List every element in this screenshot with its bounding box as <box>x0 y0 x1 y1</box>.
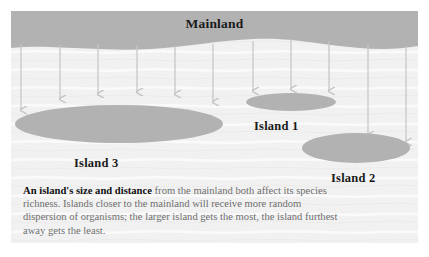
island-3-label: Island 3 <box>74 156 118 171</box>
caption-lead: An island's size and distance <box>23 185 152 196</box>
island-1-shape <box>246 93 336 111</box>
figure-caption: An island's size and distance from the m… <box>23 184 343 237</box>
mainland-label: Mainland <box>11 16 418 32</box>
diagram-scene: Mainland Island 1 Island 2 Island 3 An i… <box>11 11 418 243</box>
island-biogeography-figure: Mainland Island 1 Island 2 Island 3 An i… <box>0 0 429 257</box>
island-2-shape <box>302 133 410 163</box>
island-1-label: Island 1 <box>254 119 298 134</box>
island-3-shape <box>15 105 223 143</box>
